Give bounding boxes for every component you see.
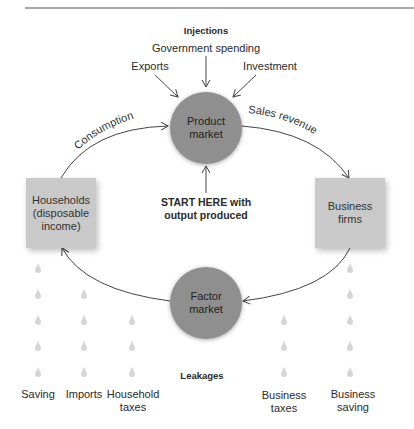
consumption-label: Consumption <box>71 109 134 151</box>
investment-arrow <box>233 75 256 97</box>
drop-icon <box>347 289 353 299</box>
factor-to-households-arrow <box>62 248 170 301</box>
drop-icon <box>35 315 41 325</box>
factor-market-label: Factor market <box>189 290 223 316</box>
product-market-node: Product market <box>170 92 242 164</box>
svg-text:Consumption: Consumption <box>71 109 134 151</box>
drop-icon <box>35 341 41 351</box>
drop-icon <box>281 315 287 325</box>
drop-icon <box>35 367 41 377</box>
households-label: Households (disposable income) <box>32 194 90 233</box>
leakage-business-taxes: Business taxes <box>258 389 310 415</box>
drop-icon <box>81 289 87 299</box>
drop-icon <box>347 263 353 273</box>
drop-icon <box>281 367 287 377</box>
drop-icon <box>81 341 87 351</box>
consumption-arrow <box>61 126 168 178</box>
drop-icon <box>35 289 41 299</box>
exports-arrow <box>155 75 178 97</box>
injection-exports: Exports <box>125 60 175 73</box>
drop-icon <box>347 341 353 351</box>
leakage-saving: Saving <box>13 388 63 401</box>
injection-government-spending: Government spending <box>146 42 266 55</box>
drop-icon <box>129 315 135 325</box>
factor-market-node: Factor market <box>170 267 242 339</box>
drop-icon <box>81 315 87 325</box>
drop-icon <box>35 263 41 273</box>
injection-investment: Investment <box>240 60 300 73</box>
sales-revenue-label: Sales revenue <box>248 103 320 136</box>
svg-text:Sales revenue: Sales revenue <box>248 103 320 136</box>
firms-to-factor-arrow <box>243 248 350 301</box>
drop-icon <box>81 367 87 377</box>
sales-revenue-arrow <box>242 126 349 178</box>
business-firms-label: Business firms <box>328 200 373 226</box>
drop-icon <box>281 341 287 351</box>
injections-title: Injections <box>176 24 236 37</box>
households-node: Households (disposable income) <box>26 178 96 248</box>
drop-icon <box>347 315 353 325</box>
drop-icon <box>129 367 135 377</box>
start-here-note: START HERE with output produced <box>146 196 266 222</box>
business-firms-node: Business firms <box>315 178 385 248</box>
leakage-household-taxes: Household taxes <box>105 388 161 414</box>
drop-icon <box>347 367 353 377</box>
leakage-business-saving: Business saving <box>326 388 380 414</box>
leakage-imports: Imports <box>60 388 108 401</box>
leakages-title: Leakages <box>172 369 232 382</box>
product-market-label: Product market <box>187 115 225 141</box>
drop-icon <box>129 341 135 351</box>
